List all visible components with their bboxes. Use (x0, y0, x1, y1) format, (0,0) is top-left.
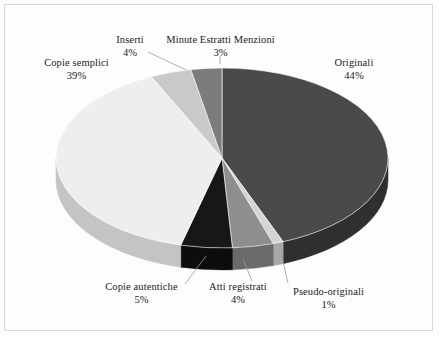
slice-label-minute-estratti-menzioni-pct: 3% (157, 47, 284, 60)
pie-chart: Copie semplici 39% Inserti 4% Minute Est… (0, 0, 439, 337)
slice-label-copie-semplici-pct: 39% (24, 70, 129, 83)
slice-label-originali-name: Originali (335, 57, 374, 68)
slice-label-minute-estratti-menzioni: Minute Estratti Menzioni 3% (157, 34, 284, 59)
slice-label-minute-estratti-menzioni-name: Minute Estratti Menzioni (166, 34, 275, 45)
slice-label-copie-semplici-name: Copie semplici (44, 57, 109, 68)
slice-label-copie-autentiche-pct: 5% (93, 294, 190, 307)
slice-label-inserti: Inserti 4% (104, 34, 156, 59)
slice-label-originali-pct: 44% (322, 70, 386, 83)
slice-label-copie-autentiche-name: Copie autentiche (105, 281, 177, 292)
slice-label-atti-registrati-name: Atti registrati (209, 281, 267, 292)
slice-label-inserti-pct: 4% (104, 47, 156, 60)
slice-label-copie-semplici: Copie semplici 39% (24, 57, 129, 82)
slice-label-originali: Originali 44% (322, 57, 386, 82)
pie-top-faces (56, 68, 388, 248)
slice-label-copie-autentiche: Copie autentiche 5% (93, 281, 190, 306)
slice-label-pseudo-originali: Pseudo-originali 1% (278, 286, 379, 311)
chart-page: Copie semplici 39% Inserti 4% Minute Est… (0, 0, 439, 337)
slice-label-atti-registrati: Atti registrati 4% (196, 281, 280, 306)
slice-label-pseudo-originali-pct: 1% (278, 299, 379, 312)
slice-label-inserti-name: Inserti (116, 34, 144, 45)
slice-label-atti-registrati-pct: 4% (196, 294, 280, 307)
slice-label-pseudo-originali-name: Pseudo-originali (293, 286, 364, 297)
